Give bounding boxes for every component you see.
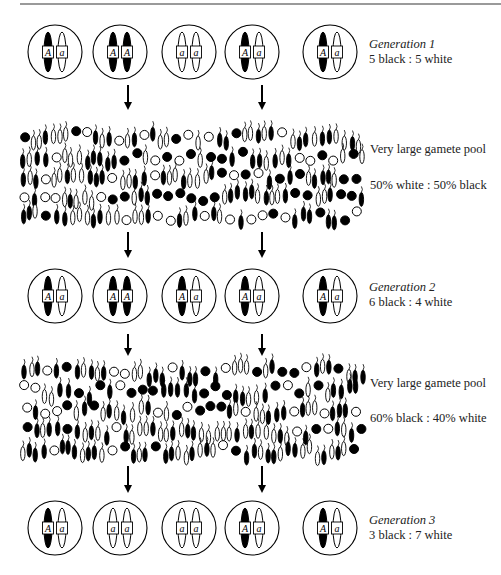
sperm-black	[171, 427, 175, 441]
sperm-black	[143, 448, 147, 462]
sperm-white	[79, 169, 83, 183]
sperm-white	[138, 365, 142, 379]
sperm-white	[244, 360, 248, 374]
sperm-black	[93, 131, 97, 145]
sperm-black	[146, 209, 150, 223]
sperm-black	[283, 189, 287, 203]
sperm-white	[263, 364, 267, 378]
egg-white	[254, 169, 263, 178]
sperm-black	[321, 171, 325, 185]
sperm-white	[270, 191, 274, 205]
sperm-white	[179, 423, 183, 437]
generation-1-label: Generation 1 5 black : 5 white	[369, 37, 452, 67]
egg-black	[222, 390, 231, 399]
sperm-white	[234, 402, 238, 416]
egg-white	[108, 446, 117, 455]
sperm-black	[348, 379, 352, 393]
sperm-black	[235, 185, 239, 199]
sperm-black	[239, 215, 243, 229]
sperm-black	[55, 210, 59, 224]
sperm-white	[77, 151, 81, 165]
egg-white	[290, 407, 299, 416]
cell-outline	[225, 501, 279, 555]
egg-black	[120, 192, 129, 201]
egg-white	[320, 409, 329, 418]
sperm-white	[264, 156, 268, 170]
egg-white	[110, 367, 119, 376]
cell-gen3-4-Aa: Aa	[225, 501, 279, 555]
sperm-black	[22, 210, 26, 224]
sperm-black	[75, 365, 79, 379]
egg-black	[271, 381, 280, 390]
sperm-black	[282, 406, 286, 420]
generation-2-title: Generation 2	[369, 280, 452, 295]
sperm-white	[232, 361, 236, 375]
egg-black	[138, 385, 147, 394]
egg-white	[97, 192, 106, 201]
egg-black	[90, 401, 99, 410]
cell-outline	[303, 269, 357, 323]
sperm-black	[224, 136, 228, 150]
sperm-white	[306, 383, 310, 397]
egg-black	[253, 367, 262, 376]
sperm-white	[255, 189, 259, 203]
egg-black	[187, 194, 196, 203]
arrow-down-icon	[124, 232, 132, 258]
sperm-white	[139, 400, 143, 414]
cell-gen2-5-Aa: Aa	[303, 269, 357, 323]
sperm-black	[244, 451, 248, 465]
sperm-black	[154, 369, 158, 383]
sperm-white	[342, 423, 346, 437]
sperm-white	[195, 174, 199, 188]
sperm-white	[101, 407, 105, 421]
egg-black	[357, 424, 366, 433]
allele-label: A	[109, 47, 117, 58]
egg-white	[200, 211, 209, 220]
egg-white	[221, 363, 230, 372]
sperm-white	[21, 447, 25, 461]
egg-black	[291, 188, 300, 197]
sperm-white	[137, 448, 141, 462]
sperm-black	[272, 450, 276, 464]
sperm-black	[151, 127, 155, 141]
sperm-white	[30, 363, 34, 377]
egg-black	[75, 389, 84, 398]
gamete-pool-2-ratio: 60% black : 40% white	[370, 411, 487, 426]
sperm-black	[27, 206, 31, 220]
sperm-black	[249, 425, 253, 439]
cell-outline	[162, 269, 216, 323]
sperm-white	[312, 132, 316, 146]
egg-black	[199, 196, 208, 205]
sperm-black	[168, 383, 172, 397]
egg-black	[217, 402, 226, 411]
sperm-black	[297, 137, 301, 151]
egg-black	[207, 152, 216, 161]
allele-label: A	[319, 523, 327, 534]
egg-black	[217, 154, 226, 163]
sperm-black	[68, 194, 72, 208]
sperm-white	[272, 429, 276, 443]
egg-black	[211, 382, 220, 391]
egg-white	[168, 363, 177, 372]
sperm-black	[243, 187, 247, 201]
egg-white	[41, 175, 50, 184]
egg-black	[238, 147, 247, 156]
egg-white	[258, 211, 267, 220]
sperm-black	[86, 156, 90, 170]
sperm-white	[334, 129, 338, 143]
allele-label: A	[241, 291, 249, 302]
cell-outline	[303, 25, 357, 79]
sperm-black	[331, 383, 335, 397]
egg-white	[115, 136, 124, 145]
sperm-black	[180, 366, 184, 380]
sperm-white	[132, 367, 136, 381]
allele-label: A	[123, 47, 131, 58]
sperm-white	[80, 449, 84, 463]
sperm-white	[64, 127, 68, 141]
egg-black	[63, 401, 72, 410]
sperm-black	[336, 446, 340, 460]
arrow-down-icon	[258, 334, 266, 356]
egg-black	[148, 386, 157, 395]
cell-gen1-4-Aa: Aa	[225, 25, 279, 79]
sperm-black	[56, 422, 60, 436]
